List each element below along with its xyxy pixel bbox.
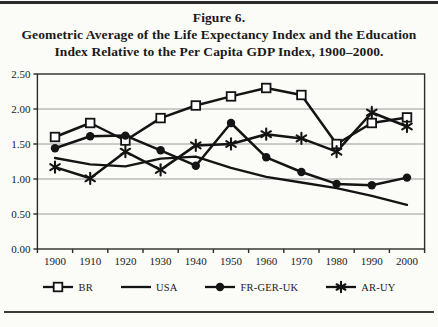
svg-text:1900: 1900	[44, 255, 67, 267]
chart-legend: BRUSAFR-GER-UKAR-UY	[0, 280, 438, 294]
svg-text:1930: 1930	[150, 255, 173, 267]
figure-top-rule	[0, 1, 438, 4]
svg-text:1920: 1920	[114, 255, 137, 267]
legend-label: AR-UY	[361, 282, 395, 293]
circle-filled-marker-icon	[204, 280, 236, 294]
legend-item-ar-uy: AR-UY	[325, 280, 395, 294]
legend-label: FR-GER-UK	[240, 282, 298, 293]
svg-text:2.50: 2.50	[11, 68, 31, 80]
figure-title-block: Figure 6. Geometric Average of the Life …	[0, 9, 438, 60]
legend-label: USA	[156, 282, 178, 293]
svg-text:1940: 1940	[185, 255, 208, 267]
svg-text:2000: 2000	[396, 255, 419, 267]
chart-plot: 0.000.501.001.502.002.501900191019201930…	[0, 66, 438, 271]
svg-text:1960: 1960	[255, 255, 278, 267]
line-marker-icon	[120, 280, 152, 294]
svg-text:1990: 1990	[361, 255, 384, 267]
asterisk-marker-icon	[325, 280, 357, 294]
svg-text:1910: 1910	[79, 255, 102, 267]
figure-title-line-1: Geometric Average of the Life Expectancy…	[0, 26, 438, 43]
figure-bottom-rule	[4, 311, 434, 313]
svg-text:1950: 1950	[220, 255, 243, 267]
svg-text:0.50: 0.50	[11, 208, 31, 220]
svg-text:1.50: 1.50	[11, 138, 31, 150]
square-open-marker-icon	[42, 280, 74, 294]
svg-text:0.00: 0.00	[11, 243, 31, 255]
legend-item-usa: USA	[120, 280, 178, 294]
svg-text:1970: 1970	[290, 255, 313, 267]
svg-text:1.00: 1.00	[11, 173, 31, 185]
chart-area: 0.000.501.001.502.002.501900191019201930…	[0, 66, 438, 271]
legend-item-fr-ger-uk: FR-GER-UK	[204, 280, 298, 294]
figure-title-line-2: Index Relative to the Per Capita GDP Ind…	[0, 43, 438, 60]
legend-label: BR	[78, 282, 92, 293]
legend-item-br: BR	[42, 280, 92, 294]
figure-number: Figure 6.	[0, 9, 438, 26]
svg-text:2.00: 2.00	[11, 103, 31, 115]
svg-text:1980: 1980	[326, 255, 349, 267]
